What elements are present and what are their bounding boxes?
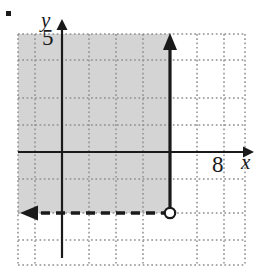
shaded-region: [18, 34, 170, 213]
open-circle-endpoint: [165, 208, 175, 218]
graph-figure: y 5 8 x: [0, 0, 262, 273]
y-tick-label-5: 5: [42, 26, 54, 49]
x-axis-label: x: [241, 152, 250, 173]
bullet-marker: [6, 11, 11, 16]
coordinate-plane-svg: [0, 0, 262, 273]
y-axis-arrowhead: [57, 19, 68, 30]
x-tick-label-8: 8: [212, 153, 224, 176]
